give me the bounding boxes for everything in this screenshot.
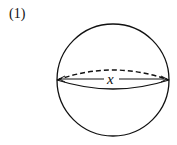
sphere-diagram: x (0, 0, 177, 145)
diameter-label: x (106, 71, 114, 87)
